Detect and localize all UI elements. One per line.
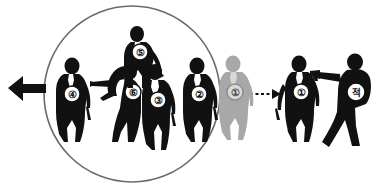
figure-guard-6: ⑥ [90, 65, 141, 143]
badge-guard-4: ④ [68, 89, 77, 100]
badge-guard-2: ② [195, 89, 204, 100]
badge-vip-ghost: ① [231, 87, 240, 98]
figure-vip: ① [275, 56, 319, 143]
badge-guard-3: ③ [154, 95, 163, 106]
withdrawal-direction-arrow [8, 76, 46, 101]
figure-guard-4: ④ [56, 58, 91, 143]
badge-guard-6: ⑥ [129, 87, 138, 98]
diagram-canvas: ④ ⑥ [0, 0, 379, 192]
badge-guard-5: ⑤ [136, 47, 145, 58]
threat-vector-arrow [250, 89, 281, 99]
badge-vip: ① [297, 87, 306, 98]
figure-vip-ghost: ① [219, 56, 253, 141]
badge-enemy: 적 [352, 87, 361, 98]
